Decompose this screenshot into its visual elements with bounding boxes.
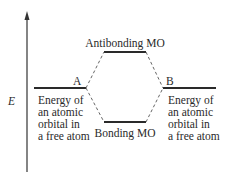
desc-a-line-4: a free atom [38, 130, 90, 142]
dash-bonding-b [146, 88, 163, 122]
dash-antibonding-b [146, 52, 163, 88]
desc-b-line-4: a free atom [168, 130, 220, 142]
mo-energy-diagram: E A Energy of an atomic orbital in a fre… [0, 0, 229, 184]
antibonding-mo: Antibonding MO [85, 37, 165, 52]
diagram-canvas: E A Energy of an atomic orbital in a fre… [0, 0, 229, 184]
axis-label: E [7, 95, 15, 107]
dash-a-antibonding [86, 52, 104, 88]
atomic-orbital-a: A Energy of an atomic orbital in a free … [34, 75, 90, 142]
desc-a-line-2: an atomic [38, 106, 83, 118]
label-antibonding: Antibonding MO [85, 37, 165, 50]
correlation-lines [86, 52, 163, 122]
bonding-mo: Bonding MO [94, 122, 155, 140]
desc-a-line-3: orbital in [38, 118, 80, 130]
label-b: B [166, 75, 174, 87]
axis-arrow-icon [25, 11, 30, 20]
label-bonding: Bonding MO [94, 127, 155, 140]
label-a: A [73, 75, 82, 87]
desc-b-line-3: orbital in [168, 118, 210, 130]
atomic-orbital-b: B Energy of an atomic orbital in a free … [163, 75, 220, 142]
desc-b-line-2: an atomic [168, 106, 213, 118]
energy-axis: E [7, 11, 30, 172]
dash-a-bonding [86, 88, 104, 122]
